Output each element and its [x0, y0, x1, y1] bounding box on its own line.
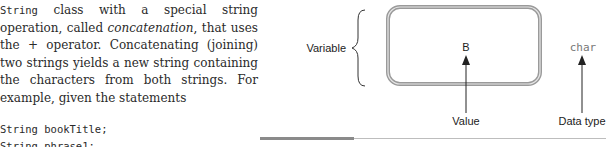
arrow-up-icon [578, 55, 586, 65]
arrow-up-icon [462, 55, 470, 65]
rule-thick [260, 137, 354, 140]
value-label: Value [452, 115, 479, 127]
variable-figure: Variable B Value char Data type [0, 0, 606, 147]
type-text: char [570, 41, 597, 54]
variable-label: Variable [306, 42, 346, 54]
type-label: Data type [558, 115, 605, 127]
value-text: B [462, 41, 469, 53]
brace-icon [352, 10, 365, 86]
